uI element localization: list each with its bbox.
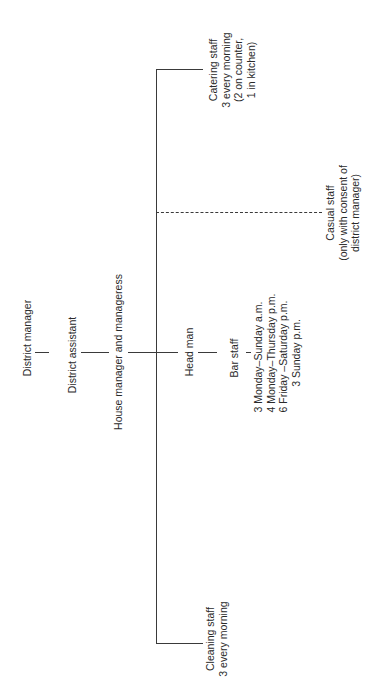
node-head-man: Head man (183, 328, 196, 376)
vertical-spine (156, 69, 157, 644)
connector-head-man-to-bar-staff (198, 352, 217, 353)
node-text: 1 in kitchen) (245, 32, 258, 107)
node-text: 3 every morning (220, 32, 233, 107)
connector-catering-staff (156, 69, 203, 70)
node-text: Catering staff (207, 32, 220, 107)
node-text: Casual staff (324, 165, 337, 261)
node-house-manager: House manager and manageress (112, 274, 125, 430)
connector-district-manager-to-assistant (35, 352, 49, 353)
dashed-connector-casual-staff (156, 212, 322, 213)
schedule-line: 3 Monday–Sunday a.m. (252, 293, 265, 412)
schedule-line: 4 Monday–Thursday p.m. (265, 293, 278, 412)
node-text: Cleaning staff (204, 601, 217, 676)
node-cleaning-staff: Cleaning staff 3 every morning (204, 601, 229, 676)
connector-assistant-to-house-manager (81, 352, 109, 353)
node-text: Head man (183, 328, 196, 376)
node-text: (only with consent of (337, 165, 350, 261)
connector-cleaning-staff (156, 643, 203, 644)
node-text: district manager) (349, 165, 362, 261)
node-casual-staff: Casual staff (only with consent of distr… (324, 165, 362, 261)
node-bar-schedule: 3 Monday–Sunday a.m. 4 Monday–Thursday p… (252, 293, 302, 412)
node-catering-staff: Catering staff 3 every morning (2 on cou… (207, 32, 257, 107)
connector-house-manager-to-spine (128, 352, 178, 353)
node-text: (2 on counter, (232, 32, 245, 107)
node-text: Bar staff (228, 339, 241, 378)
node-text: 3 every morning (216, 601, 229, 676)
schedule-line: 6 Friday –Saturday p.m. (277, 293, 290, 412)
node-text: House manager and manageress (112, 274, 125, 430)
node-text: District manager (21, 300, 34, 376)
node-district-manager: District manager (21, 300, 34, 376)
node-text: District assistant (66, 317, 79, 393)
node-district-assistant: District assistant (66, 317, 79, 393)
connector-bar-staff-to-schedule (246, 352, 251, 353)
node-bar-staff: Bar staff (228, 339, 241, 378)
schedule-line: 3 Sunday p.m. (290, 293, 303, 412)
